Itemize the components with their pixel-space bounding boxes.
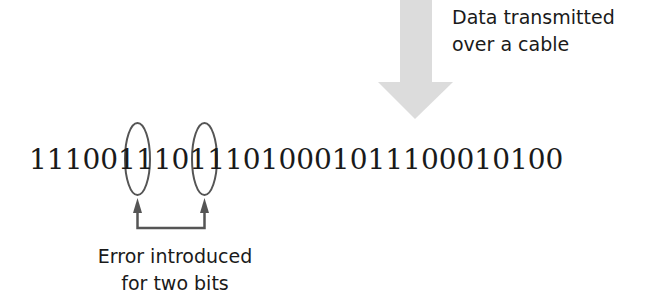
error-label-line2: for two bits bbox=[84, 270, 266, 297]
transmission-label-line1: Data transmitted bbox=[452, 4, 615, 31]
transmission-label-line2: over a cable bbox=[452, 31, 615, 58]
error-connector-arrows bbox=[133, 198, 209, 228]
arrowhead-up-icon bbox=[200, 198, 209, 213]
error-label: Error introduced for two bits bbox=[84, 243, 266, 297]
arrowhead-up-icon bbox=[133, 198, 142, 213]
error-label-line1: Error introduced bbox=[84, 243, 266, 270]
diagram-canvas: Data transmitted over a cable 1110011101… bbox=[0, 0, 659, 298]
transmission-label: Data transmitted over a cable bbox=[452, 4, 615, 58]
bit-string: 111001110111010001011100010100 bbox=[29, 142, 563, 178]
down-arrow-icon bbox=[378, 0, 453, 119]
